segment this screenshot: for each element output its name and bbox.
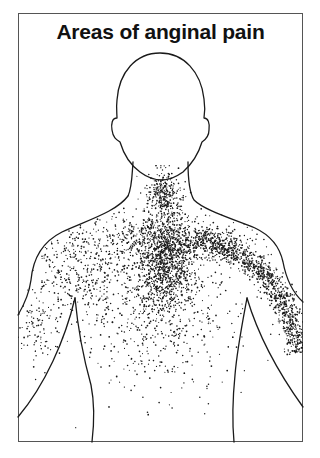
pain-stippling [6, 155, 317, 428]
body-diagram [0, 0, 320, 458]
head-outline [112, 53, 210, 180]
left-torso-outline [75, 298, 94, 442]
right-torso-outline [233, 298, 247, 442]
